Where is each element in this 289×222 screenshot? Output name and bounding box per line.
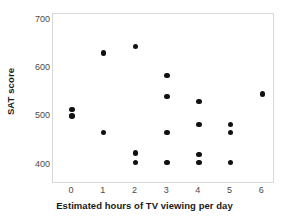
x-tick-label: 6 — [250, 185, 272, 195]
data-point — [196, 122, 201, 127]
data-point — [133, 160, 138, 165]
y-axis-title-label: SAT score — [6, 68, 17, 115]
data-point — [133, 150, 138, 155]
scatter-plot-figure: SAT score 400500600700 0123456 Estimated… — [0, 0, 289, 222]
data-point — [164, 130, 169, 135]
x-tick-label: 5 — [219, 185, 241, 195]
data-point — [69, 107, 74, 112]
data-point — [164, 73, 169, 78]
data-point — [101, 130, 106, 135]
x-tick-label: 1 — [92, 185, 114, 195]
y-tick-label: 700 — [24, 14, 50, 24]
data-point — [196, 99, 201, 104]
plot-area — [52, 13, 274, 183]
data-point — [260, 91, 265, 96]
y-tick-label: 600 — [24, 62, 50, 72]
x-axis-tick-labels: 0123456 — [52, 185, 274, 199]
x-tick-label: 2 — [123, 185, 145, 195]
y-axis-tick-labels: 400500600700 — [22, 0, 50, 183]
x-axis-title: Estimated hours of TV viewing per day — [0, 200, 289, 211]
data-point — [228, 122, 233, 127]
data-point — [69, 113, 74, 118]
data-point — [196, 152, 201, 157]
x-tick-label: 4 — [187, 185, 209, 195]
data-point — [228, 160, 233, 165]
x-tick-label: 0 — [60, 185, 82, 195]
y-tick-label: 400 — [24, 159, 50, 169]
y-axis-title: SAT score — [0, 0, 22, 183]
data-point — [133, 44, 138, 49]
data-point — [164, 160, 169, 165]
data-point — [164, 94, 169, 99]
y-tick-label: 500 — [24, 110, 50, 120]
x-tick-label: 3 — [155, 185, 177, 195]
data-point — [196, 160, 201, 165]
data-point — [101, 50, 106, 55]
data-point — [228, 130, 233, 135]
